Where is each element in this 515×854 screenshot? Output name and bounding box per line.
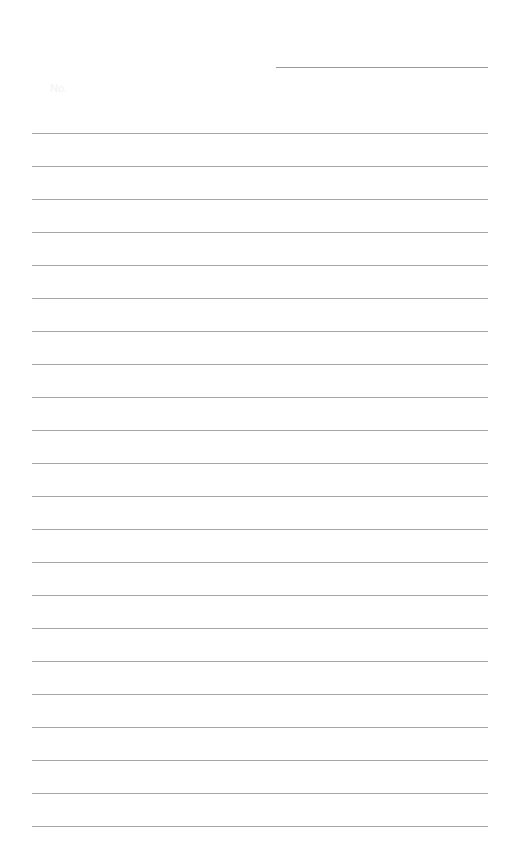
ruled-line <box>32 133 488 134</box>
ruled-line <box>32 397 488 398</box>
ruled-line <box>32 661 488 662</box>
ruled-line <box>32 364 488 365</box>
ruled-line <box>32 298 488 299</box>
ruled-line <box>32 331 488 332</box>
number-label: No. <box>50 82 67 94</box>
ruled-line <box>32 463 488 464</box>
ruled-line <box>32 793 488 794</box>
ruled-line <box>32 265 488 266</box>
ruled-line <box>32 727 488 728</box>
ruled-line <box>32 595 488 596</box>
ruled-line <box>32 628 488 629</box>
ruled-line <box>32 562 488 563</box>
ruled-line <box>32 694 488 695</box>
ruled-line <box>32 199 488 200</box>
date-line <box>276 67 488 68</box>
ruled-line <box>32 496 488 497</box>
ruled-line <box>32 430 488 431</box>
ruled-line <box>32 760 488 761</box>
ruled-line <box>32 166 488 167</box>
ruled-line <box>32 529 488 530</box>
ruled-line <box>32 826 488 827</box>
ruled-line <box>32 232 488 233</box>
